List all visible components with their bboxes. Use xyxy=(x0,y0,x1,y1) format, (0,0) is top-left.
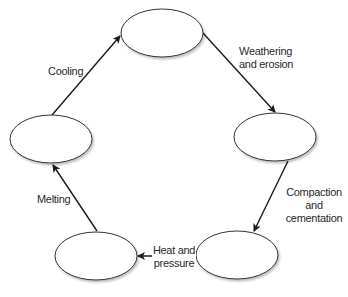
label-melting: Melting xyxy=(37,193,70,206)
node-right xyxy=(234,113,316,161)
label-heat-line2: pressure xyxy=(152,257,196,270)
label-compaction-cementation: Compaction and cementation xyxy=(284,186,344,225)
label-compaction-line3: cementation xyxy=(284,212,344,225)
label-weathering-erosion: Weathering and erosion xyxy=(239,45,293,71)
node-bottom-right xyxy=(196,231,278,279)
node-left xyxy=(10,115,92,163)
label-cooling: Cooling xyxy=(48,65,83,78)
label-weathering-line1: Weathering xyxy=(239,45,293,58)
node-top xyxy=(121,9,203,57)
label-heat-line1: Heat and xyxy=(152,244,196,257)
label-compaction-line2: and xyxy=(284,199,344,212)
node-bottom-left xyxy=(55,232,137,280)
label-weathering-line2: and erosion xyxy=(239,58,293,71)
label-compaction-line1: Compaction xyxy=(284,186,344,199)
label-heat-pressure: Heat and pressure xyxy=(152,244,196,270)
edge-compaction-arrow xyxy=(254,161,288,231)
rock-cycle-diagram: Cooling Weathering and erosion Compactio… xyxy=(0,0,348,297)
